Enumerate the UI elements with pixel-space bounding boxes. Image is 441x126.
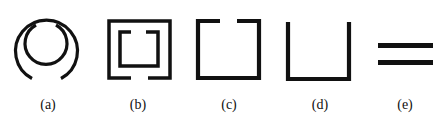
figure-stage: (a) (b) (c) (d) (e)	[0, 0, 441, 126]
panel-d-u-shape-icon	[288, 22, 349, 79]
inner-square-icon	[120, 32, 158, 66]
outer-square-icon	[109, 21, 170, 78]
panel-e-label: (e)	[385, 97, 425, 113]
panel-a-label: (a)	[28, 97, 68, 113]
panel-b-label: (b)	[118, 97, 158, 113]
panel-b-split-squares-icon	[109, 21, 170, 78]
panel-c-split-square-icon	[198, 21, 259, 78]
panel-a-split-rings-icon	[15, 20, 77, 78]
panel-d-label: (d)	[300, 97, 340, 113]
top-bar-icon	[378, 43, 433, 48]
u-shape-icon	[288, 22, 349, 79]
panel-e-parallel-bars-icon	[378, 43, 433, 65]
square-ring-icon	[198, 21, 259, 78]
panel-c-label: (c)	[209, 97, 249, 113]
bottom-bar-icon	[378, 60, 433, 65]
inner-ring-icon	[25, 25, 67, 64]
